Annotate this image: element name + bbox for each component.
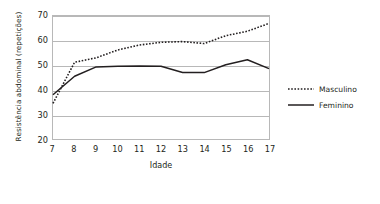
legend-solid-line-icon — [288, 100, 314, 110]
x-tick-label: 10 — [112, 144, 122, 154]
legend-dotted-line-icon — [288, 84, 314, 94]
y-axis-tick-labels: 203040506070 — [22, 0, 48, 204]
x-axis-tick-labels: 7891011121314151617 — [52, 144, 270, 158]
x-tick-label: 12 — [156, 144, 166, 154]
y-tick-label: 30 — [38, 110, 48, 120]
x-tick-label: 17 — [265, 144, 275, 154]
y-tick-label: 50 — [38, 60, 48, 70]
legend-label: Feminino — [319, 101, 354, 110]
x-axis-title: Idade — [52, 161, 270, 170]
y-tick-label: 70 — [38, 10, 48, 20]
chart-legend: MasculinoFeminino — [288, 81, 380, 113]
series-line-masculino — [53, 23, 269, 103]
x-tick-label: 16 — [243, 144, 253, 154]
series-lines — [53, 16, 269, 139]
x-tick-label: 7 — [49, 144, 54, 154]
legend-label: Masculino — [319, 85, 357, 94]
series-line-feminino — [53, 60, 269, 95]
x-tick-label: 11 — [134, 144, 144, 154]
y-tick-label: 40 — [38, 85, 48, 95]
x-tick-label: 9 — [93, 144, 98, 154]
x-tick-label: 13 — [178, 144, 188, 154]
plot-area — [52, 15, 270, 140]
chart-container: Resistência abdominal (repetições) 20304… — [0, 0, 380, 204]
y-tick-label: 20 — [38, 135, 48, 145]
y-tick-label: 60 — [38, 35, 48, 45]
legend-item-masculino[interactable]: Masculino — [288, 81, 380, 97]
legend-item-feminino[interactable]: Feminino — [288, 97, 380, 113]
x-tick-label: 14 — [199, 144, 209, 154]
x-tick-label: 8 — [71, 144, 76, 154]
x-tick-label: 15 — [221, 144, 231, 154]
